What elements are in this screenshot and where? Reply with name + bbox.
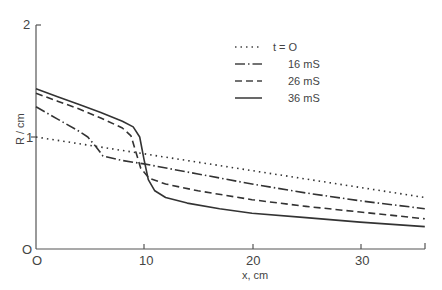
ytick-label-1: 1: [26, 130, 33, 145]
legend-label-16ms: 16 mS: [288, 58, 320, 70]
xtick-label-30: 30: [355, 253, 369, 268]
series-line-1: [36, 107, 425, 209]
y-axis-title: R / cm: [14, 113, 26, 145]
x-axis: [36, 243, 425, 249]
ytick-label-0: O: [22, 242, 32, 257]
series-layer: [36, 89, 425, 227]
x-axis-title: x, cm: [242, 269, 268, 281]
series-line-0: [36, 137, 425, 198]
series-line-2: [36, 93, 425, 219]
legend-label-t0: t = O: [273, 41, 298, 53]
legend-label-36ms: 36 mS: [288, 92, 320, 104]
legend-label-26ms: 26 mS: [288, 75, 320, 87]
xtick-label-10: 10: [139, 253, 153, 268]
chart: 2 1 O O 10 20 30 x, cm R / cm t = O 16 m…: [0, 0, 442, 290]
xtick-label-20: 20: [246, 253, 260, 268]
series-line-3: [36, 89, 425, 227]
ytick-label-2: 2: [23, 17, 30, 32]
xtick-label-0: O: [32, 253, 42, 268]
legend: t = O 16 mS 26 mS 36 mS: [235, 41, 320, 104]
